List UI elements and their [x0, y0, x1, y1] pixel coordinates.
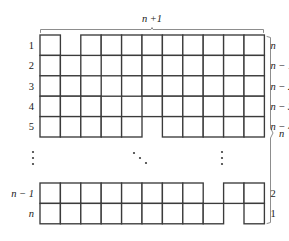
cell [142, 203, 162, 223]
cell [203, 35, 223, 55]
cell [142, 183, 162, 203]
cell [40, 96, 60, 116]
cell [81, 183, 101, 203]
cell [224, 183, 244, 203]
cell [60, 203, 80, 223]
cell [122, 35, 142, 55]
cell [162, 117, 182, 137]
cell [40, 117, 60, 137]
cell [40, 55, 60, 75]
row-label-right-6: 2 [270, 188, 275, 199]
cell [183, 117, 203, 137]
cell [244, 55, 264, 75]
cell [162, 76, 182, 96]
cell [40, 76, 60, 96]
cell [162, 35, 182, 55]
top-brace-label: n +1 [142, 13, 162, 24]
row-label-left-2: 2 [29, 60, 34, 71]
cell [183, 96, 203, 116]
cell [183, 35, 203, 55]
row-label-left-3: 3 [29, 81, 34, 92]
cell [162, 96, 182, 116]
row-label-right-3: n − 2 [270, 81, 289, 92]
cell [122, 55, 142, 75]
cell [244, 117, 264, 137]
cell [101, 117, 121, 137]
cell [101, 35, 121, 55]
cell [81, 203, 101, 223]
cell [60, 183, 80, 203]
cell [101, 55, 121, 75]
cell [81, 35, 101, 55]
cell [244, 35, 264, 55]
cell [224, 55, 244, 75]
cell [60, 76, 80, 96]
cell [40, 183, 60, 203]
row-label-right-1: n [270, 40, 275, 51]
cell [101, 96, 121, 116]
diagram-canvas: n +1 n 1n2n − 13n − 24n − 35n − 4n − 12n… [0, 0, 289, 241]
row-label-right-4: n − 3 [270, 101, 289, 112]
cell [203, 76, 223, 96]
row-label-left-4: 4 [29, 101, 35, 112]
cell [60, 55, 80, 75]
cell [142, 35, 162, 55]
cell [224, 76, 244, 96]
cell [40, 203, 60, 223]
cell [122, 203, 142, 223]
row-label-right-7: 1 [270, 208, 275, 219]
cell [122, 183, 142, 203]
cell [162, 55, 182, 75]
cell [224, 117, 244, 137]
cell [203, 96, 223, 116]
cell [142, 76, 162, 96]
cell [142, 55, 162, 75]
cell [203, 55, 223, 75]
cell [101, 203, 121, 223]
row-label-left-1: 1 [29, 40, 34, 51]
cell [162, 183, 182, 203]
row-label-left-5: 5 [29, 121, 34, 132]
cell [60, 117, 80, 137]
cell [122, 76, 142, 96]
cell [183, 55, 203, 75]
row-label-left-7: n [29, 208, 34, 219]
cell [183, 76, 203, 96]
cell [244, 183, 264, 203]
cell [162, 203, 182, 223]
cell [81, 76, 101, 96]
row-label-right-5: n − 4 [270, 121, 289, 132]
cell [203, 203, 223, 223]
cell [244, 96, 264, 116]
cell [40, 35, 60, 55]
row-label-left-6: n − 1 [11, 188, 34, 199]
cell [244, 203, 264, 223]
cell [203, 117, 223, 137]
cell [122, 117, 142, 137]
cell [224, 35, 244, 55]
cell [142, 96, 162, 116]
cell [183, 183, 203, 203]
cell [81, 117, 101, 137]
cell [60, 96, 80, 116]
cell [224, 96, 244, 116]
row-label-right-2: n − 1 [270, 60, 289, 71]
cell [183, 203, 203, 223]
staircase-diagram-figure: n +1 n 1n2n − 13n − 24n − 35n − 4n − 12n… [0, 0, 289, 241]
cell [244, 76, 264, 96]
cell [81, 96, 101, 116]
cell [101, 183, 121, 203]
